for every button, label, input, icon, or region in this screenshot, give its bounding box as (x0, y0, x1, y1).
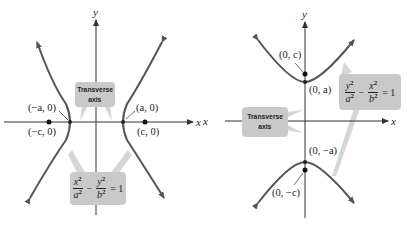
transverse-pointer-lower (286, 124, 303, 133)
hyperbola-diagrams (0, 0, 407, 228)
x-axis-label-right: x (391, 116, 396, 127)
focus-0-c (303, 72, 308, 77)
vertex-a (121, 120, 125, 124)
vertex-0-neg-a (303, 160, 307, 164)
focus-c (143, 120, 148, 125)
y-axis-label-left: y (93, 7, 98, 18)
point-label-0-neg-a: (0, −a) (309, 146, 337, 157)
y-axis-label-right: y (302, 9, 307, 20)
fraction-x2-a2: x2 a2 (73, 176, 83, 201)
leader-neg-a (59, 111, 68, 120)
transverse-pointer-left (80, 105, 88, 121)
focus-0-neg-c (303, 168, 308, 173)
transverse-axis-label-line2: axis (258, 122, 271, 132)
transverse-axis-label-line1: Transverse (247, 112, 283, 122)
transverse-pointer-right (104, 105, 112, 121)
transverse-axis-callout-right: Transverse axis (242, 107, 288, 137)
equation-pointer-right (110, 150, 132, 174)
equation-callout-right: y2 a2 − x2 b2 = 1 (339, 74, 401, 110)
vertex-neg-a (68, 120, 72, 124)
transverse-pointer-upper (286, 110, 303, 118)
transverse-axis-label-line2: axis (88, 95, 101, 105)
leader-a (126, 111, 135, 119)
fraction-y2-b2: y2 b2 (96, 176, 106, 201)
fraction-x2-b2: x2 b2 (368, 80, 378, 105)
focus-neg-c (47, 120, 52, 125)
point-label-c: (c, 0) (137, 127, 159, 138)
vertex-0-a (303, 80, 307, 84)
equation-pointer-left (68, 150, 86, 174)
leader-0-neg-c (294, 173, 303, 185)
x-axis-label-right-stray: x (203, 116, 208, 127)
transverse-axis-label-line1: Transverse (77, 85, 113, 95)
point-label-0-a: (0, a) (309, 85, 331, 96)
point-label-neg-c: (−c, 0) (28, 127, 56, 138)
point-label-a: (a, 0) (136, 103, 158, 114)
point-label-0-neg-c: (0, −c) (272, 188, 300, 199)
equation-horizontal: x2 a2 − y2 b2 = 1 (71, 176, 126, 201)
fraction-y2-a2: y2 a2 (345, 80, 355, 105)
point-label-neg-a: (−a, 0) (28, 103, 56, 114)
leader-0-c (295, 63, 303, 72)
equation-pointer-lower (332, 108, 360, 176)
equation-callout-left: x2 a2 − y2 b2 = 1 (70, 172, 126, 205)
transverse-axis-callout-left: Transverse axis (75, 82, 115, 107)
equation-vertical: y2 a2 − x2 b2 = 1 (343, 80, 398, 105)
x-axis-label-left: x (196, 117, 201, 128)
point-label-0-c: (0, c) (279, 50, 301, 61)
